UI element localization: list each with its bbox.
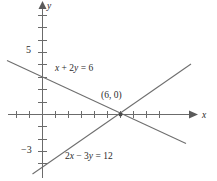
equation2-term-equals12: = 12 [93,151,113,161]
y-axis-group [38,1,47,178]
line-x-plus-2y-equals-6 [7,61,186,144]
x-axis-arrow-icon [189,111,198,119]
equation1-term-plus2: + 2 [59,63,74,73]
y-tick-label-5: 5 [26,45,31,55]
y-axis-label: y [47,2,51,12]
intersection-point-marker [119,113,123,117]
y-axis-arrow-icon [39,1,47,9]
equation1-term-equals6: = 6 [78,63,93,73]
x-axis-label: x [202,111,206,121]
equation-label-line1: x + 2y = 6 [55,64,93,74]
graph-figure: y x 5 −3 x + 2y = 6 2x − 3y = 12 (6, 0) [0,0,217,181]
equation2-term-minus3: − 3 [74,151,89,161]
y-tick-label-minus-3: −3 [21,145,32,155]
intersection-point-label: (6, 0) [101,91,122,101]
x-axis-group [8,110,198,119]
equation-label-line2: 2x − 3y = 12 [65,152,113,162]
